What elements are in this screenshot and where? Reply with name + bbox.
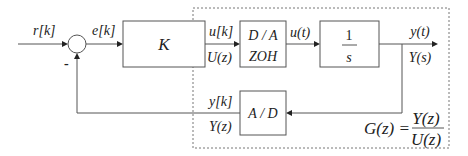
- transfer-function-lhs: G(z) =: [364, 119, 410, 138]
- output-discrete-label: y[k]: [207, 94, 232, 109]
- reference-label: r[k]: [33, 23, 56, 38]
- control-continuous-label: u(t): [290, 25, 311, 41]
- output-s-label: Y(s): [409, 50, 432, 66]
- minus-sign: -: [64, 56, 69, 71]
- reference-arrow: [62, 41, 68, 47]
- block-diagram: r[k] - e[k] K u[k] U(z) D / A ZOH u(t) 1…: [0, 0, 468, 156]
- plant-denominator: s: [346, 50, 352, 65]
- output-z-label: Y(z): [209, 119, 232, 135]
- transfer-function-denominator: U(z): [411, 130, 442, 149]
- adc-label: A / D: [247, 106, 277, 121]
- error-arrow: [117, 41, 123, 47]
- controller-gain: K: [157, 35, 171, 54]
- error-label: e[k]: [92, 23, 115, 38]
- plant-numerator: 1: [346, 28, 353, 43]
- dac-label: D / A: [247, 28, 278, 43]
- control-discrete-label: u[k]: [209, 24, 233, 39]
- control-continuous-arrow: [314, 41, 320, 47]
- summing-junction: [68, 35, 86, 53]
- control-z-label: U(z): [207, 50, 232, 66]
- transfer-function-numerator: Y(z): [412, 109, 440, 128]
- output-continuous-label: y(t): [408, 24, 430, 40]
- output-arrow: [432, 41, 438, 47]
- feedback-arrow: [74, 53, 80, 59]
- zoh-label: ZOH: [249, 49, 278, 64]
- control-discrete-arrow: [234, 41, 240, 47]
- adc-input-arrow: [286, 110, 292, 116]
